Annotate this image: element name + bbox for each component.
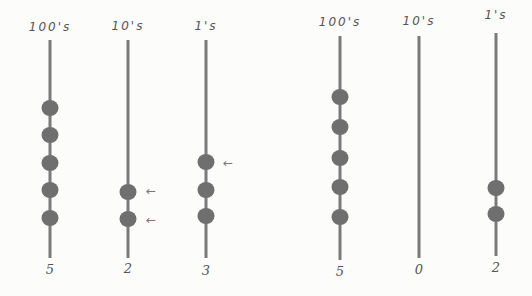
arrow-left-icon: ← (223, 157, 233, 169)
place-label-10s: 10's (403, 14, 436, 28)
arrow-left-icon: ← (146, 185, 156, 197)
abacus-diagram: 100's510's←←21's←3 100's510's01's2 (0, 0, 532, 296)
arrow-left-icon: ← (146, 214, 156, 226)
bead (488, 180, 505, 196)
place-label-100s: 100's (319, 15, 361, 29)
bead (42, 210, 59, 226)
bead (198, 154, 215, 170)
bead (332, 179, 349, 195)
bead (332, 150, 349, 166)
bead (198, 182, 215, 198)
bead (120, 184, 137, 200)
bead (332, 89, 349, 105)
bead (332, 119, 349, 135)
bead (42, 182, 59, 198)
digit-value-1s: 3 (202, 263, 210, 278)
digit-value-100s: 5 (46, 262, 54, 277)
digit-value-10s: 0 (415, 262, 423, 277)
bead (42, 100, 59, 116)
place-label-1s: 1's (194, 19, 217, 33)
bead (488, 206, 505, 222)
rod-1s (495, 33, 498, 256)
bead (42, 155, 59, 171)
place-label-10s: 10's (112, 19, 145, 33)
bead (42, 127, 59, 143)
digit-value-100s: 5 (336, 264, 344, 279)
bead (198, 208, 215, 224)
place-label-100s: 100's (29, 20, 71, 34)
bead (120, 211, 137, 227)
rod-1s (205, 40, 208, 258)
rod-100s (339, 36, 342, 260)
place-label-1s: 1's (484, 8, 507, 22)
rod-10s (418, 36, 421, 258)
digit-value-1s: 2 (492, 260, 500, 275)
digit-value-10s: 2 (124, 261, 132, 276)
bead (332, 209, 349, 225)
